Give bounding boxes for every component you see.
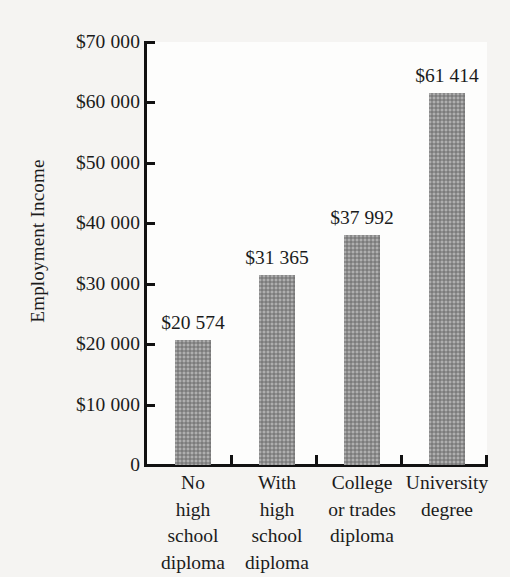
category-label-line: diploma <box>302 523 422 550</box>
y-tick-mark <box>146 41 155 44</box>
y-tick-mark <box>146 404 155 407</box>
bar-chart: Employment Income $70 000 $60 000 $50 00… <box>0 0 510 577</box>
y-tick-mark <box>146 162 155 165</box>
bar-value-label: $61 414 <box>392 66 502 86</box>
category-label-line: degree <box>387 497 507 524</box>
y-tick-label: $60 000 <box>12 92 140 112</box>
y-tick-mark <box>146 283 155 286</box>
y-tick-label: $30 000 <box>12 274 140 294</box>
y-tick-mark <box>146 343 155 346</box>
y-tick-label: $10 000 <box>12 395 140 415</box>
y-tick-label: 0 <box>12 455 140 475</box>
y-tick-label: $50 000 <box>12 153 140 173</box>
bar-value-label: $37 992 <box>307 208 417 228</box>
bar-with-high-school-diploma <box>259 275 295 465</box>
bar-value-label: $31 365 <box>222 248 332 268</box>
y-axis-line <box>144 41 147 467</box>
y-tick-mark <box>146 101 155 104</box>
bar-no-high-school-diploma <box>175 340 211 465</box>
bar-value-label: $20 574 <box>138 313 248 333</box>
category-label-university-degree: University degree <box>387 470 507 523</box>
y-tick-label: $40 000 <box>12 213 140 233</box>
bar-college-or-trades-diploma <box>344 235 380 465</box>
y-tick-label: $70 000 <box>12 32 140 52</box>
y-tick-mark <box>146 222 155 225</box>
category-label-line: diploma <box>217 550 337 577</box>
y-tick-label: $20 000 <box>12 334 140 354</box>
bar-university-degree <box>429 93 465 465</box>
category-label-line: University <box>387 470 507 497</box>
